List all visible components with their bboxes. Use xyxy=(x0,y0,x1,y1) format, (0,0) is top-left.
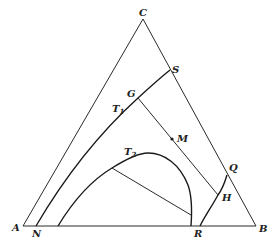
label-g: G xyxy=(127,88,136,99)
tie-line-g-h xyxy=(138,98,218,195)
label-r: R xyxy=(193,228,202,239)
label-a: A xyxy=(11,222,20,233)
label-n: N xyxy=(31,228,42,239)
label-t1: T1 xyxy=(112,103,124,116)
label-q: Q xyxy=(229,162,238,173)
ternary-diagram: C A B S G M Q H N R T1 T2 xyxy=(0,0,274,245)
tie-line-inner xyxy=(112,168,191,215)
curve-t1 xyxy=(36,70,170,226)
label-m: M xyxy=(176,133,189,144)
label-t1-sub: 1 xyxy=(119,107,124,116)
point-m xyxy=(170,137,173,140)
label-s: S xyxy=(172,64,179,75)
label-t2: T2 xyxy=(124,146,136,159)
label-b: B xyxy=(258,223,267,234)
label-h: H xyxy=(221,192,232,203)
label-c: C xyxy=(139,7,147,18)
label-t2-sub: 2 xyxy=(130,150,136,159)
